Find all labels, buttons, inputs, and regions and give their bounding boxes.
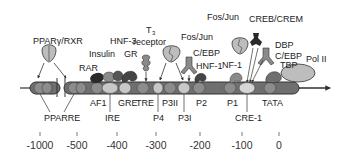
svg-text:PPARγ/RXR: PPARγ/RXR <box>33 36 83 46</box>
svg-text:Insulin: Insulin <box>89 49 115 59</box>
protein-fos-jun-2 <box>232 38 248 54</box>
protein-hnf3 <box>113 71 123 81</box>
svg-text:RAR: RAR <box>79 63 99 73</box>
protein-hnf1 <box>195 73 206 82</box>
element-labels: PPARRE AF1 IRE GRE TRE P4 P3II P3I P2 P1… <box>40 94 283 123</box>
dna-strand <box>20 78 330 97</box>
svg-text:-1000: -1000 <box>27 139 54 151</box>
svg-text:GRE: GRE <box>118 98 138 108</box>
svg-text:-500: -500 <box>66 139 87 151</box>
protein-cebp-1 <box>181 57 197 81</box>
protein-t3-receptor <box>142 55 150 81</box>
svg-text:P3II: P3II <box>162 98 178 108</box>
svg-text:-400: -400 <box>106 139 127 151</box>
svg-text:P4: P4 <box>153 113 164 123</box>
svg-text:P3I: P3I <box>178 113 192 123</box>
svg-text:Fos/Jun: Fos/Jun <box>207 12 239 22</box>
svg-text:IRE: IRE <box>105 113 120 123</box>
position-axis: -1000 -500 -400 -300 -200 -100 0 <box>27 132 283 151</box>
svg-text:0: 0 <box>276 139 282 151</box>
svg-text:-200: -200 <box>189 139 210 151</box>
svg-text:P1: P1 <box>227 98 238 108</box>
svg-text:DBP: DBP <box>275 40 294 50</box>
svg-text:3: 3 <box>152 30 156 36</box>
svg-text:C/EBP: C/EBP <box>193 48 220 58</box>
promoter-diagram: PPARγ/RXR RAR Insulin HNF-3 GR T 3 recep… <box>0 0 341 167</box>
svg-text:HNF-1: HNF-1 <box>196 61 223 71</box>
svg-text:AF1: AF1 <box>90 98 107 108</box>
svg-text:TBP: TBP <box>280 60 298 70</box>
svg-text:receptor: receptor <box>133 37 166 47</box>
svg-text:P2: P2 <box>196 98 207 108</box>
protein-ppar-rxr <box>38 45 66 78</box>
svg-text:PPARRE: PPARRE <box>44 113 80 123</box>
protein-gr <box>122 71 137 82</box>
svg-text:-100: -100 <box>231 139 252 151</box>
svg-text:-300: -300 <box>145 139 166 151</box>
protein-creb-crem <box>247 33 262 82</box>
svg-text:CRE-1: CRE-1 <box>235 113 262 123</box>
svg-text:Fos/Jun: Fos/Jun <box>181 32 213 42</box>
svg-text:GR: GR <box>124 49 138 59</box>
factor-labels: PPARγ/RXR RAR Insulin HNF-3 GR T 3 recep… <box>33 12 327 73</box>
svg-text:TRE: TRE <box>136 98 154 108</box>
svg-text:Pol II: Pol II <box>306 54 327 64</box>
svg-text:TATA: TATA <box>262 98 283 108</box>
protein-fos-jun-1 <box>160 46 183 80</box>
svg-text:NF-1: NF-1 <box>222 60 242 70</box>
protein-tbp <box>266 72 282 83</box>
svg-text:CREB/CREM: CREB/CREM <box>249 14 303 24</box>
